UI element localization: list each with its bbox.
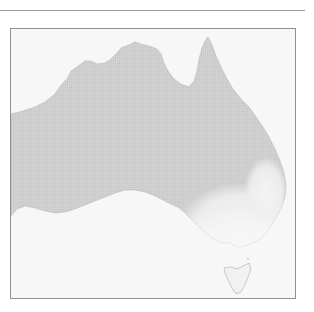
map-frame: Australia	[10, 28, 296, 299]
australia-map	[11, 29, 296, 299]
horizontal-rule	[0, 10, 305, 11]
southeast-highlight-region	[11, 151, 296, 263]
bass-strait-island	[247, 258, 249, 260]
mainland-australia	[11, 37, 296, 263]
tasmania	[224, 263, 251, 294]
